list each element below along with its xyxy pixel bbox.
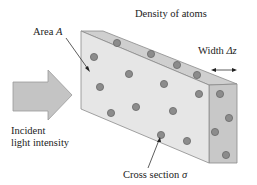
atom-front (107, 109, 114, 116)
cross-section-symbol: σ (182, 169, 187, 180)
atom-front (183, 137, 190, 144)
atom-top (113, 39, 120, 46)
atom-side (211, 128, 218, 135)
atom-top (147, 50, 154, 57)
width-arrowhead-right (232, 68, 237, 72)
cross-section-label: Cross section σ (123, 169, 187, 181)
atom-side (225, 114, 232, 121)
incident-light-arrow (13, 70, 72, 120)
area-label: Area A (33, 26, 62, 38)
atom-front (157, 131, 164, 138)
absorption-slab-diagram: Density of atoms Area A Width Δz Inciden… (0, 0, 257, 185)
atom-side (216, 90, 223, 97)
atom-front (125, 70, 132, 77)
width-label-text: Width (198, 45, 224, 56)
area-label-text: Area (33, 26, 53, 37)
atom-front (132, 103, 139, 110)
atom-front (195, 90, 202, 97)
incident-label-line1: Incident (11, 125, 45, 137)
area-symbol: A (56, 26, 62, 37)
width-label: Width Δz (198, 45, 237, 57)
width-arrowhead-left (211, 68, 216, 72)
atom-top (193, 71, 200, 78)
atom-top (173, 61, 180, 68)
atom-front (160, 80, 167, 87)
density-of-atoms-label: Density of atoms (135, 8, 207, 20)
incident-label-line2: light intensity (11, 137, 69, 149)
atom-front (96, 83, 103, 90)
cross-section-pointer-line (148, 140, 159, 168)
cross-section-label-text: Cross section (123, 169, 179, 180)
atom-front (90, 53, 97, 60)
density-label-text: Density of atoms (135, 8, 207, 19)
atom-front (169, 107, 176, 114)
width-symbol: Δz (226, 45, 236, 56)
atom-side (222, 151, 229, 158)
